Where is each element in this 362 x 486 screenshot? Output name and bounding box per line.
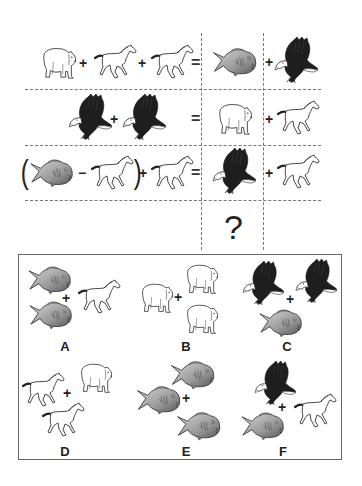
horse-icon — [276, 100, 320, 136]
eagle-icon — [122, 93, 166, 141]
polar-bear-icon — [184, 259, 220, 297]
plus-sign: + — [137, 166, 149, 180]
plus-sign: + — [172, 290, 184, 304]
polar-bear-icon — [78, 358, 114, 396]
plus-sign: + — [263, 166, 275, 180]
horse-icon — [293, 393, 337, 429]
horse-icon — [150, 44, 194, 80]
eagle-icon — [68, 93, 112, 141]
plus-sign: + — [108, 112, 120, 126]
polar-bear-icon — [40, 42, 78, 82]
polar-bear-icon — [216, 98, 254, 138]
eagle-icon — [212, 147, 256, 195]
option-label: D — [55, 444, 75, 459]
equals-sign: = — [191, 165, 200, 181]
piranha-fish-icon — [259, 308, 303, 338]
equals-sign: = — [191, 55, 200, 71]
horse-icon — [276, 154, 320, 190]
piranha-fish-icon — [30, 158, 74, 188]
eagle-icon — [254, 360, 296, 406]
polar-bear-icon — [184, 299, 220, 337]
eagle-icon — [295, 258, 337, 304]
equals-sign: = — [191, 111, 200, 127]
row-divider-3 — [25, 200, 321, 201]
option-label: F — [273, 444, 293, 459]
piranha-fish-icon — [241, 411, 285, 441]
option-label: B — [176, 339, 196, 354]
horse-icon — [93, 44, 137, 80]
plus-sign: + — [61, 386, 73, 400]
column-divider-1 — [201, 33, 202, 250]
plus-sign: + — [180, 391, 192, 405]
horse-icon — [41, 402, 85, 438]
option-label: C — [277, 339, 297, 354]
horse-icon — [77, 279, 121, 315]
eagle-icon — [274, 36, 318, 84]
eagle-icon — [242, 260, 284, 306]
option-label: E — [176, 444, 196, 459]
horse-icon — [90, 155, 134, 191]
piranha-fish-icon — [212, 47, 258, 77]
row-divider-1 — [25, 89, 321, 90]
minus-sign: − — [76, 166, 88, 180]
row-divider-2 — [25, 145, 321, 146]
piranha-fish-icon — [29, 300, 73, 330]
question-mark: ? — [224, 210, 243, 244]
open-parenthesis: ( — [21, 154, 29, 188]
plus-sign: + — [77, 56, 89, 70]
piranha-fish-icon — [176, 411, 222, 441]
option-label: A — [55, 339, 75, 354]
horse-icon — [150, 155, 194, 191]
plus-sign: + — [136, 56, 148, 70]
plus-sign: + — [263, 112, 275, 126]
polar-bear-icon — [139, 278, 175, 316]
